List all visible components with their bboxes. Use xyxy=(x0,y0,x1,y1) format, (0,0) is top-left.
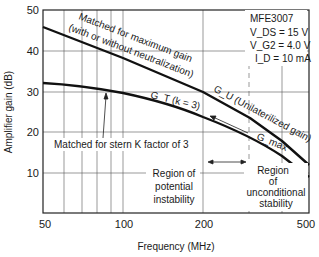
region-labels: Region of potential instability Region o… xyxy=(146,163,308,211)
y-tick: 30 xyxy=(27,86,39,98)
device-conditions: MFE3007 V_DS = 15 V V_G2 = 4.0 V I_D = 1… xyxy=(245,10,311,66)
arrow-head xyxy=(104,93,108,99)
region-unconditional-line1: Region xyxy=(257,165,289,176)
y-axis-ticks: 50 40 30 20 10 xyxy=(27,4,39,179)
region-unconditional-line3: unconditional xyxy=(247,187,306,198)
x-axis-label: Frequency (MHz) xyxy=(137,241,214,252)
region-potential-line1: Region of xyxy=(153,168,196,179)
y-tick: 40 xyxy=(27,45,39,57)
vg2-label: V_G2 = 4.0 V xyxy=(250,40,311,51)
device-label: MFE3007 xyxy=(250,13,294,24)
region-unconditional-line4: stability xyxy=(259,198,292,209)
y-tick: 10 xyxy=(27,167,39,179)
y-tick: 50 xyxy=(27,4,39,16)
x-tick: 200 xyxy=(195,218,213,230)
region-unconditional-line2: of xyxy=(269,176,278,187)
gmax-pointer-arrow xyxy=(213,117,248,133)
x-tick: 100 xyxy=(115,218,133,230)
vds-label: V_DS = 15 V xyxy=(250,27,308,38)
x-tick: 50 xyxy=(39,218,51,230)
arrow-head xyxy=(208,160,213,164)
region-potential-line3: instability xyxy=(153,194,194,205)
x-axis-ticks: 50 100 200 500 xyxy=(39,218,315,230)
id-label: I_D = 10 mA xyxy=(255,53,311,64)
gain-vs-frequency-chart: 50 40 30 20 10 50 100 200 500 Frequency … xyxy=(0,0,319,257)
y-tick: 20 xyxy=(27,126,39,138)
region-potential-line2: potential xyxy=(155,181,193,192)
stern-k-label: Matched for stern K factor of 3 xyxy=(54,139,189,150)
y-axis-label: Amplifier gain (dB) xyxy=(3,71,14,153)
x-tick: 500 xyxy=(297,218,315,230)
